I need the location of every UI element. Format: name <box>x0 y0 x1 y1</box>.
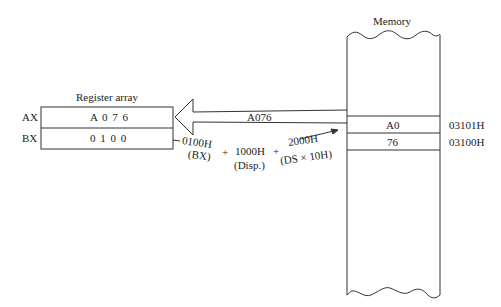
diagram-canvas: Register array AX BX A 0 7 6 0 1 0 0 Mem… <box>0 0 501 307</box>
calc-term-disp-value: 1000H <box>235 146 265 157</box>
calc-operator-1: + <box>222 147 228 158</box>
memory-cell-value-1: 76 <box>387 137 398 148</box>
memory-cell-address-0: 03101H <box>449 120 484 131</box>
memory-box <box>347 31 440 298</box>
calc-term-disp-source: (Disp.) <box>234 160 265 171</box>
register-name-ax: AX <box>22 112 38 123</box>
memory-title: Memory <box>373 16 411 27</box>
memory-cell-value-0: A0 <box>386 120 399 131</box>
register-name-bx: BX <box>22 133 37 144</box>
memory-cell-address-1: 03100H <box>449 137 484 148</box>
register-value-bx: 0 1 0 0 <box>90 133 127 144</box>
transfer-label: A076 <box>247 112 271 123</box>
address-arrowhead <box>331 129 338 134</box>
register-array-title: Register array <box>76 92 138 103</box>
register-value-ax: A 0 7 6 <box>90 112 129 123</box>
calc-operator-2: + <box>273 146 279 157</box>
